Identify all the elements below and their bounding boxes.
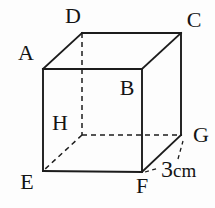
vertex-label-E: E — [20, 169, 33, 194]
dimension-unit: cm — [173, 160, 196, 181]
cube-figure-svg: ABCDEFGH 3cm — [0, 0, 215, 208]
dimension-label: 3cm — [161, 156, 196, 182]
edge-EF — [43, 171, 142, 172]
dimension-label-group: 3cm — [161, 156, 196, 182]
edge-HE — [43, 135, 82, 171]
vertex-label-F: F — [136, 173, 148, 198]
edge-AD — [43, 33, 82, 69]
dimension-leader-2 — [178, 141, 183, 159]
vertex-label-B: B — [120, 75, 135, 100]
dimension-value: 3 — [161, 156, 173, 182]
vertex-label-C: C — [187, 7, 202, 32]
dimension-leader-1 — [145, 168, 159, 172]
geometry-diagram: ABCDEFGH 3cm — [0, 0, 215, 208]
cube-edges — [43, 33, 181, 172]
vertex-label-H: H — [52, 110, 68, 135]
vertex-label-A: A — [18, 40, 34, 65]
edge-BC — [142, 33, 181, 69]
vertex-label-D: D — [65, 3, 81, 28]
vertex-label-G: G — [193, 122, 209, 147]
